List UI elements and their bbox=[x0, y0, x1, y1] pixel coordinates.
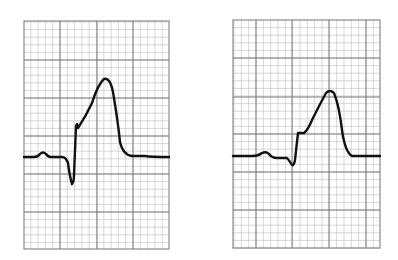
ecg-trace bbox=[233, 91, 380, 165]
ecg-strip-right bbox=[233, 20, 380, 248]
ecg-strip-left bbox=[24, 21, 169, 249]
ecg-figure bbox=[0, 0, 398, 260]
